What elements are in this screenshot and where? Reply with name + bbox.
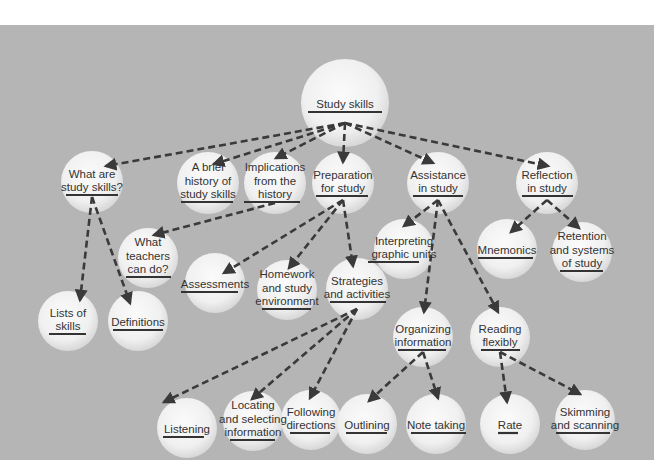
node-label: teachers bbox=[126, 250, 170, 262]
node-label: A brief bbox=[192, 161, 225, 173]
node-label: information bbox=[395, 336, 452, 348]
node-label: study skills? bbox=[61, 181, 123, 193]
concept-map: Study skillsWhat arestudy skills?A brief… bbox=[0, 0, 654, 460]
node-label: Assessments bbox=[181, 278, 250, 290]
node-label: and selecting bbox=[219, 413, 287, 425]
node-label: Outlining bbox=[344, 419, 389, 431]
node-label: Strategies bbox=[331, 275, 383, 287]
dashed-arrow-edge bbox=[369, 352, 423, 401]
node-label: study skills bbox=[180, 188, 236, 200]
node-label: information bbox=[225, 426, 282, 438]
node-label: and scanning bbox=[551, 419, 619, 431]
node-label: can do? bbox=[128, 263, 169, 275]
node-label: graphic units bbox=[371, 248, 436, 260]
node-label: What are bbox=[69, 168, 116, 180]
node-label: skills bbox=[56, 320, 81, 332]
node-label: Organizing bbox=[395, 323, 451, 335]
node-label: Homework bbox=[260, 268, 315, 280]
node-label: Mnemonics bbox=[478, 244, 537, 256]
node-label: Definitions bbox=[111, 316, 165, 328]
node-label: in study bbox=[418, 182, 458, 194]
node-label: from the bbox=[254, 175, 296, 187]
node-label: What bbox=[135, 236, 163, 248]
node-label: and activities bbox=[324, 288, 391, 300]
node-label: Retention bbox=[557, 230, 606, 242]
dashed-arrow-edge bbox=[310, 309, 357, 398]
node-label: Preparation bbox=[313, 169, 372, 181]
dashed-arrow-edge bbox=[289, 200, 343, 268]
node-label: Reflection bbox=[521, 169, 572, 181]
node-label: Lists of bbox=[50, 307, 87, 319]
node-label: Assistance bbox=[410, 169, 466, 181]
node-label: Skimming bbox=[560, 406, 610, 418]
node-label: of study bbox=[562, 257, 603, 269]
node-label: Locating bbox=[231, 399, 274, 411]
node-label: history of bbox=[185, 175, 232, 187]
node-label: for study bbox=[321, 182, 365, 194]
dashed-arrow-edge bbox=[80, 197, 92, 300]
dashed-arrow-edge bbox=[252, 309, 357, 399]
node-label: Study skills bbox=[316, 98, 374, 110]
dashed-arrow-edge bbox=[164, 309, 357, 402]
node-label: Rate bbox=[498, 419, 522, 431]
node-label: flexibly bbox=[482, 336, 517, 348]
node-label: environment bbox=[255, 295, 319, 307]
node-label: Reading bbox=[479, 323, 522, 335]
node-label: Interpreting bbox=[375, 235, 433, 247]
node-label: Following bbox=[287, 406, 336, 418]
dashed-arrow-edge bbox=[500, 352, 580, 394]
node-label: history bbox=[258, 188, 292, 200]
node-label: Note taking bbox=[407, 419, 465, 431]
node-label: directions bbox=[286, 419, 335, 431]
node-label: Implications bbox=[245, 161, 306, 173]
node-label: and study bbox=[262, 282, 312, 294]
node-label: and systems bbox=[550, 244, 615, 256]
node-label: in study bbox=[527, 182, 567, 194]
node-label: Listening bbox=[164, 423, 210, 435]
